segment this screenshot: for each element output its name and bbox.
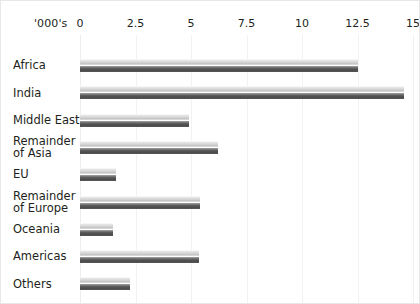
bar — [80, 86, 404, 99]
axis-unit-label: '000's — [34, 17, 67, 30]
x-axis-tick-label: 2.5 — [127, 17, 145, 30]
bar-row: Middle East — [1, 114, 420, 127]
bar-row: EU — [1, 168, 420, 181]
x-axis-tick-label: 0 — [77, 17, 84, 30]
x-axis-tick-label: 5 — [188, 17, 195, 30]
bar — [80, 277, 130, 290]
bar-row: Americas — [1, 250, 420, 263]
bar-row: Oceania — [1, 223, 420, 236]
bar-row: Remainder of Asia — [1, 141, 420, 154]
bar-row: Others — [1, 277, 420, 290]
bar-row: Africa — [1, 59, 420, 72]
bar — [80, 196, 200, 209]
bar-row: Remainder of Europe — [1, 196, 420, 209]
plot-area: AfricaIndiaMiddle EastRemainder of AsiaE… — [1, 35, 420, 304]
bar — [80, 250, 199, 263]
x-axis-tick-label: 10 — [295, 17, 309, 30]
bar — [80, 59, 358, 72]
x-axis-tick-label: 15 — [406, 17, 420, 30]
x-axis-tick-label: 7.5 — [238, 17, 256, 30]
bar — [80, 223, 113, 236]
bar — [80, 114, 189, 127]
bar — [80, 168, 116, 181]
x-axis-tick-label: 12.5 — [345, 17, 370, 30]
bar — [80, 141, 218, 154]
bar-chart: '000's 02.557.51012.515 AfricaIndiaMiddl… — [0, 0, 420, 304]
bar-row: India — [1, 86, 420, 99]
x-axis-header: '000's 02.557.51012.515 — [1, 1, 420, 35]
